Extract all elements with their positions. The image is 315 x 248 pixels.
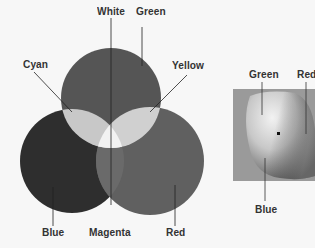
label-blue: Blue xyxy=(42,226,64,238)
wheel-label-blue: Blue xyxy=(255,203,277,215)
label-green: Green xyxy=(136,5,166,17)
label-red: Red xyxy=(166,226,185,238)
wheel-center-dot xyxy=(277,132,280,135)
wheel-label-green: Green xyxy=(249,68,279,80)
color-diagram: White Green Cyan Yellow Blue Magenta Red… xyxy=(0,0,315,248)
label-magenta: Magenta xyxy=(89,226,131,238)
label-white: White xyxy=(97,5,125,17)
label-cyan: Cyan xyxy=(23,58,48,70)
wheel-label-red: Red xyxy=(297,68,315,80)
label-yellow: Yellow xyxy=(172,59,204,71)
